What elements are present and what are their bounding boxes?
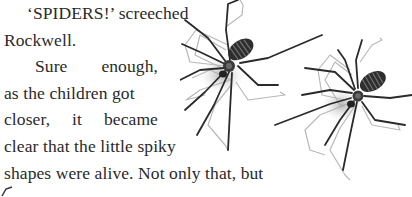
book-page: ‘SPIDERS!’ screeched Rockwell. Sure enou… bbox=[0, 0, 412, 197]
text-word: it bbox=[72, 109, 82, 129]
text-line-6: clear that the little spiky bbox=[4, 136, 176, 156]
text-line-3: Sure enough, bbox=[35, 56, 158, 76]
spiders-illustration bbox=[180, 0, 412, 197]
text-line-4: as the children got bbox=[4, 83, 135, 103]
text-line-5: closer, it became bbox=[4, 109, 158, 129]
spider-icon bbox=[180, 0, 322, 150]
text-line-1: ‘SPIDERS!’ screeched bbox=[27, 3, 189, 23]
spider-icon bbox=[275, 38, 412, 180]
leg-fragment-icon bbox=[0, 186, 20, 197]
text-word: enough, bbox=[101, 56, 158, 76]
text-word: closer, bbox=[4, 109, 50, 129]
text-word: became bbox=[104, 109, 158, 129]
text-word: Sure bbox=[35, 56, 67, 76]
text-line-2: Rockwell. bbox=[4, 30, 76, 50]
